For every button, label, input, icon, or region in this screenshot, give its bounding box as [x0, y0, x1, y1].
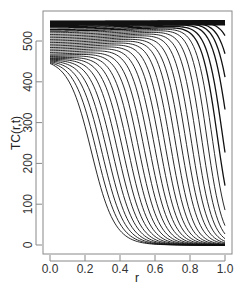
y-tick-label: 200	[21, 153, 35, 173]
y-tick-label: 400	[21, 71, 35, 91]
x-tick-label: 0.2	[77, 262, 94, 276]
x-tick-label: 0.4	[112, 262, 129, 276]
x-tick-label: 0.0	[42, 262, 59, 276]
y-tick-label: 500	[21, 31, 35, 51]
x-tick-label: 0.8	[182, 262, 199, 276]
x-tick-label: 1.0	[217, 262, 234, 276]
y-axis-title: TC(r,t)	[9, 116, 23, 150]
plateau-band	[50, 21, 225, 26]
y-tick-label: 300	[21, 112, 35, 132]
y-tick-label: 100	[21, 194, 35, 214]
y-tick-label: 0	[21, 241, 35, 248]
chart: 0100200300400500 0.00.20.40.60.81.0 TC(r…	[0, 0, 244, 293]
x-axis-title: r	[135, 271, 139, 285]
x-tick-label: 0.6	[147, 262, 164, 276]
